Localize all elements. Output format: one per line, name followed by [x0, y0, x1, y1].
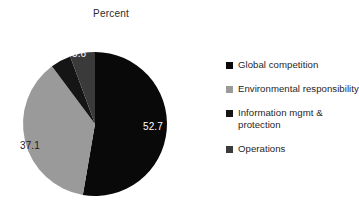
slice-label-global-competition: 52.7: [143, 121, 163, 132]
pie-svg: [0, 26, 215, 222]
legend-item-environmental-responsibility[interactable]: Environmental responsibility: [226, 83, 359, 95]
legend-label: Information mgmt & protection: [238, 107, 359, 131]
pie-chart: Percent 52.7 37.1 5.6 Global competition…: [0, 0, 359, 222]
legend-swatch-icon: [226, 86, 233, 93]
legend-label: Operations: [238, 143, 285, 155]
slice-label-operations: 5.6: [72, 48, 86, 59]
chart-legend: Global competition Environmental respons…: [226, 59, 359, 155]
legend-item-global-competition[interactable]: Global competition: [226, 59, 359, 71]
legend-swatch-icon: [226, 110, 233, 117]
pie-plot-area: 52.7 37.1 5.6: [0, 26, 215, 222]
legend-swatch-icon: [226, 146, 233, 153]
legend-item-information-mgmt-protection[interactable]: Information mgmt & protection: [226, 107, 359, 131]
legend-label: Global competition: [238, 59, 318, 71]
chart-title: Percent: [0, 8, 222, 20]
legend-item-operations[interactable]: Operations: [226, 143, 359, 155]
slice-label-environmental-responsibility: 37.1: [20, 140, 40, 151]
legend-swatch-icon: [226, 62, 233, 69]
legend-label: Environmental responsibility: [238, 83, 359, 95]
